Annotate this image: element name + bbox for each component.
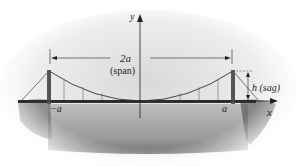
x-axis-label: x [266,106,272,118]
pos-a-label: a [222,103,227,114]
neg-a-label: −a [50,103,62,114]
span-caption-label: (span) [110,65,135,77]
right-tower [231,70,235,104]
left-tower [47,70,51,104]
y-axis-label: y [129,11,135,22]
span-value-label: 2a [120,52,132,64]
diagram-canvas: y x 2a (span) h (sag) −a a [0,0,296,167]
sag-label: h (sag) [252,82,281,94]
bridge-diagram: y x 2a (span) h (sag) −a a [0,0,296,167]
